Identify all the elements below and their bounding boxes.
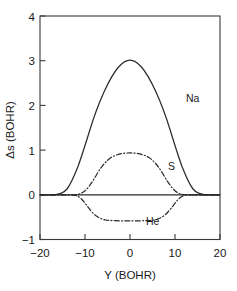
y-tick-label-0: 0 (29, 189, 35, 201)
plot-svg: 4 3 2 1 0 −1 −20 −10 0 10 20 Y (BOHR) Δs… (0, 0, 237, 291)
y-axis-title: Δs (BOHR) (4, 101, 16, 159)
x-tick-label-20: 20 (214, 247, 227, 259)
series-annotation-s: S (168, 160, 175, 172)
series-annotation-na: Na (186, 92, 200, 104)
y-tick-label-3: 3 (29, 55, 35, 67)
plot-frame (40, 16, 220, 240)
x-tick-label-neg10: −10 (75, 247, 95, 259)
x-tick-label-0: 0 (127, 247, 133, 259)
series-annotation-he: He (146, 215, 160, 227)
y-tick-label-4: 4 (29, 11, 36, 23)
chart-figure: 4 3 2 1 0 −1 −20 −10 0 10 20 Y (BOHR) Δs… (0, 0, 237, 291)
x-axis-title: Y (BOHR) (104, 269, 156, 281)
series-curve-na (40, 60, 220, 195)
y-tick-label-neg1: −1 (22, 234, 35, 246)
series-curve-he (40, 195, 220, 221)
x-axis-ticks (40, 234, 220, 240)
x-tick-label-10: 10 (169, 247, 182, 259)
x-tick-label-neg20: −20 (30, 247, 50, 259)
y-tick-label-1: 1 (29, 145, 35, 157)
y-tick-label-2: 2 (29, 100, 35, 112)
y-axis-ticks (40, 16, 46, 240)
